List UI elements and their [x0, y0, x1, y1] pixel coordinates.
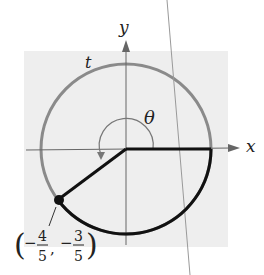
arc-label-t: t: [85, 53, 92, 72]
y-axis-label: y: [118, 17, 129, 37]
angle-label-theta: θ: [144, 107, 155, 128]
y-denominator: 5: [74, 248, 83, 264]
y-axis-arrow-icon: [122, 40, 130, 52]
svg-text:,: ,: [50, 240, 55, 258]
unit-circle-diagram: y x t θ ( − 4 5 , − 3 5 ): [0, 0, 264, 275]
x-axis-label: x: [246, 136, 256, 156]
x-axis-arrow-icon: [228, 144, 240, 152]
svg-text:): ): [86, 227, 98, 262]
x-denominator: 5: [38, 248, 47, 264]
point-marker: [54, 195, 64, 205]
y-sign: −: [60, 234, 73, 252]
y-numerator: 3: [74, 228, 83, 244]
x-numerator: 4: [38, 228, 47, 244]
x-sign: −: [24, 234, 37, 252]
